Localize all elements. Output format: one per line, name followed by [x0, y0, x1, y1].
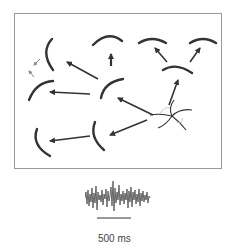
arc-9	[93, 122, 104, 150]
small-arrow-2	[29, 71, 34, 77]
arrow-3	[155, 48, 167, 62]
small-arrow-1	[34, 59, 40, 65]
arc-7	[101, 79, 123, 98]
arc-2	[93, 36, 122, 45]
arc-6	[29, 81, 53, 100]
scale-bar-label: 500 ms	[98, 234, 131, 244]
arrow-6	[118, 98, 153, 115]
arc-5	[163, 67, 192, 73]
arrow-4	[190, 48, 200, 62]
arrow-1	[67, 62, 98, 79]
arrow-5	[50, 92, 90, 94]
arc-1	[46, 39, 53, 70]
arc-4	[190, 39, 216, 43]
pinwheel-star	[150, 100, 192, 130]
eeg-trace	[85, 178, 151, 220]
arc-3	[139, 39, 166, 43]
arrow-8	[110, 120, 147, 135]
arc-8	[36, 129, 50, 156]
arrow-9	[50, 136, 90, 141]
